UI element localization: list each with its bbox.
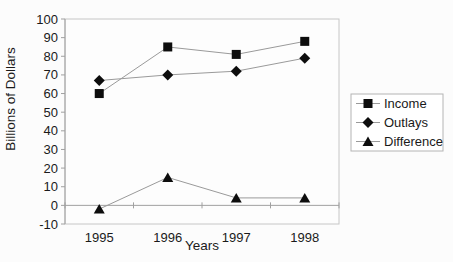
y-tick-label: 80: [44, 49, 58, 64]
legend-label-income: Income: [384, 96, 427, 111]
y-tick-label: 20: [44, 161, 58, 176]
chart-canvas: 1009080706050403020100-10199519961997199…: [0, 0, 453, 262]
x-axis-title: Years: [185, 238, 219, 253]
legend-income-marker-square: [364, 99, 373, 108]
series-income-marker-square: [232, 50, 241, 59]
x-category-label: 1998: [290, 230, 319, 245]
series-income-marker-square: [95, 89, 104, 98]
plot-frame: [65, 19, 339, 224]
x-category-label: 1996: [153, 230, 182, 245]
y-tick-label: 30: [44, 142, 58, 157]
y-tick-label: 90: [44, 30, 58, 45]
line-chart: 1009080706050403020100-10199519961997199…: [0, 0, 453, 262]
legend-label-outlays: Outlays: [384, 115, 429, 130]
legend-label-difference: Difference: [384, 134, 443, 149]
y-tick-label: 50: [44, 105, 58, 120]
legend: IncomeOutlaysDifference: [351, 94, 443, 151]
y-tick-label: -10: [39, 217, 58, 232]
series-income-marker-square: [163, 42, 172, 51]
y-tick-label: 60: [44, 86, 58, 101]
x-category-label: 1997: [222, 230, 251, 245]
y-axis-title: Billions of Dollars: [3, 47, 18, 151]
y-tick-label: 100: [36, 12, 58, 27]
y-tick-label: 40: [44, 123, 58, 138]
x-category-label: 1995: [85, 230, 114, 245]
y-tick-label: 70: [44, 67, 58, 82]
y-tick-label: 0: [51, 198, 58, 213]
y-tick-label: 10: [44, 179, 58, 194]
plot-area: 1009080706050403020100-10199519961997199…: [36, 12, 339, 245]
series-income-marker-square: [300, 37, 309, 46]
